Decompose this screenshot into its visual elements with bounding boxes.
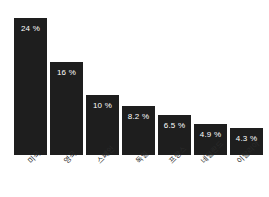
bar-value-label: 4.9 % — [194, 130, 227, 139]
category-axis: 미국 영국 스페인 독일 프랑스 네덜란드 이탈리아 — [0, 155, 269, 197]
bar-value-label: 10 % — [86, 101, 119, 110]
bar-group: 10 % — [86, 95, 119, 155]
bar-value-label: 8.2 % — [122, 112, 155, 121]
bar-chart-figure: 24 % 16 % 10 % 8.2 % 6.5 % 4.9 % 4.3 % — [0, 0, 269, 197]
bar-group: 24 % — [14, 18, 47, 155]
bar-group: 16 % — [50, 62, 83, 155]
plot-area: 24 % 16 % 10 % 8.2 % 6.5 % 4.9 % 4.3 % — [0, 0, 269, 155]
bar-value-label: 6.5 % — [158, 121, 191, 130]
bar-value-label: 24 % — [14, 24, 47, 33]
bar-group: 8.2 % — [122, 106, 155, 155]
bar-value-label: 16 % — [50, 68, 83, 77]
bar[interactable] — [14, 18, 47, 155]
